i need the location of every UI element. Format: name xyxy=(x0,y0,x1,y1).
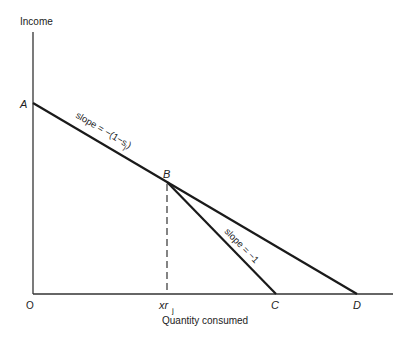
point-C-label: C xyxy=(271,299,279,311)
y-axis-label: Income xyxy=(20,16,53,27)
line-A-D xyxy=(33,103,357,294)
svg-text:j: j xyxy=(171,306,174,315)
x-tick-xrj: xr j xyxy=(158,299,174,315)
line-B-C xyxy=(167,182,276,294)
x-axis-label: Quantity consumed xyxy=(162,315,248,326)
svg-text:xr: xr xyxy=(158,299,170,311)
budget-constraint-diagram: Income A B C D O xr j Quantity consumed … xyxy=(0,0,414,345)
point-B-label: B xyxy=(163,168,170,180)
origin-label: O xyxy=(26,300,34,311)
point-A-label: A xyxy=(19,98,27,110)
point-D-label: D xyxy=(353,299,361,311)
